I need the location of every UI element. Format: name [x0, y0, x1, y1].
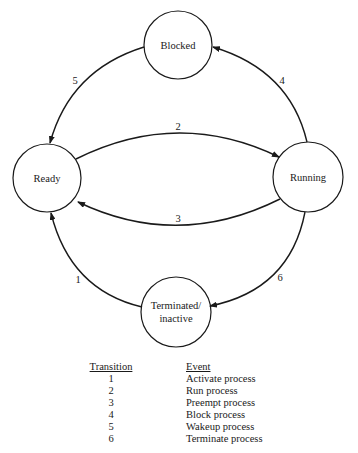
legend-event-cell: Preempt process [186, 397, 326, 409]
node-blocked: Blocked [144, 11, 212, 79]
legend-event-cell: Terminate process [186, 433, 326, 445]
node-running: Running [273, 142, 343, 212]
node-label-ready: Ready [34, 173, 62, 184]
edge-3-running-to-ready: 3 [78, 199, 280, 225]
legend-transition-cell: 6 [86, 433, 136, 445]
edge-label-6: 6 [277, 272, 282, 283]
legend-event-cell: Run process [186, 385, 326, 397]
edge-4-running-to-blocked: 4 [213, 47, 307, 142]
edge-5-blocked-to-ready: 5 [50, 47, 144, 143]
edge-label-5: 5 [72, 75, 77, 86]
legend-transition-cell: 3 [86, 397, 136, 409]
edge-label-3: 3 [175, 213, 180, 224]
legend-event-cell: Block process [186, 409, 326, 421]
legend-event-cell: Activate process [186, 373, 326, 385]
legend-transition-column: Transition 1 2 3 4 5 6 [86, 361, 136, 445]
edge-2-ready-to-running: 2 [76, 121, 279, 159]
legend-transition-cell: 5 [86, 421, 136, 433]
legend-transition-cell: 2 [86, 385, 136, 397]
legend-event-column: Event Activate process Run process Preem… [186, 361, 326, 445]
legend-transition-header: Transition [86, 361, 136, 373]
legend-event-cell: Wakeup process [186, 421, 326, 433]
legend-transition-cell: 4 [86, 409, 136, 421]
node-terminated: Terminated/ inactive [141, 277, 211, 347]
edge-6-running-to-terminated: 6 [210, 212, 305, 306]
node-label-terminated-line2: inactive [159, 313, 193, 324]
node-label-running: Running [290, 172, 327, 183]
node-label-blocked: Blocked [161, 40, 197, 51]
node-ready: Ready [13, 144, 81, 212]
legend-transition-cell: 1 [86, 373, 136, 385]
edge-1-terminated-to-ready: 1 [51, 213, 142, 307]
edge-label-1: 1 [75, 274, 80, 285]
legend-event-header: Event [186, 361, 326, 373]
edge-label-2: 2 [175, 121, 180, 132]
node-label-terminated-line1: Terminated/ [151, 300, 202, 311]
edge-label-4: 4 [279, 75, 285, 86]
